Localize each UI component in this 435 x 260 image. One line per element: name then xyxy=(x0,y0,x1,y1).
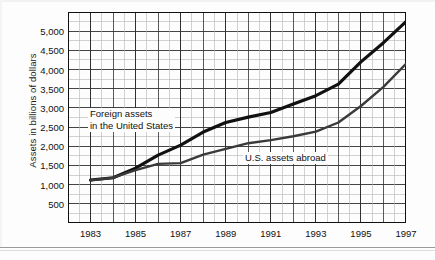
x-axis-tick-label: 1989 xyxy=(206,228,246,239)
x-axis-tick-label: 1987 xyxy=(161,228,201,239)
y-axis-tick-label: 2,000 xyxy=(18,141,64,152)
x-axis-tick-label: 1985 xyxy=(116,228,156,239)
x-axis-tick-label: 1995 xyxy=(341,228,381,239)
x-axis-tick-label: 1997 xyxy=(386,228,426,239)
y-axis-tick-label: 500 xyxy=(18,198,64,209)
y-axis-tick-labels: 5001,0001,5002,0002,5003,0003,5004,0004,… xyxy=(18,0,64,260)
annotation-foreign-assets: Foreign assets in the United States xyxy=(88,108,175,132)
annotation-foreign-assets-line1: Foreign assets xyxy=(90,108,173,120)
y-axis-tick-label: 3,500 xyxy=(18,83,64,94)
page-edge-top xyxy=(0,0,435,2)
y-axis-tick-label: 4,500 xyxy=(18,45,64,56)
annotation-us-assets-abroad-line1: U.S. assets abroad xyxy=(245,152,326,164)
page-edge-bottom-rule xyxy=(0,247,435,248)
y-axis-tick-label: 2,500 xyxy=(18,122,64,133)
y-axis-tick-label: 5,000 xyxy=(18,26,64,37)
y-axis-tick-label: 4,000 xyxy=(18,64,64,75)
annotation-us-assets-abroad: U.S. assets abroad xyxy=(243,152,328,164)
x-axis-tick-label: 1993 xyxy=(296,228,336,239)
x-axis-tick-label: 1991 xyxy=(251,228,291,239)
page-edge-left xyxy=(0,0,2,248)
page-edge-bottom-rule-secondary xyxy=(0,250,435,251)
x-axis-tick-labels: 19831985198719891991199319951997 xyxy=(0,228,435,242)
y-axis-tick-label: 1,500 xyxy=(18,160,64,171)
y-axis-tick-label: 1,000 xyxy=(18,179,64,190)
x-axis-tick-label: 1983 xyxy=(71,228,111,239)
annotation-foreign-assets-line2: in the United States xyxy=(90,120,173,132)
chart-screenshot: Assets in billions of dollars 5001,0001,… xyxy=(0,0,435,260)
y-axis-tick-label: 3,000 xyxy=(18,102,64,113)
